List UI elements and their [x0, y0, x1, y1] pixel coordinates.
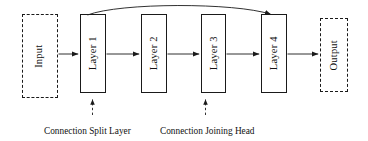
node-layer-4-label: Layer 4	[269, 37, 280, 71]
node-layer-3: Layer 3	[201, 14, 226, 93]
caption-connection-split-layer: Connection Split Layer	[44, 127, 131, 136]
node-layer-1-label: Layer 1	[88, 37, 99, 71]
node-layer-2-label: Layer 2	[149, 37, 160, 71]
diagram-canvas: Input Layer 1 Layer 2 Layer 3 Layer 4 Ou…	[0, 0, 368, 141]
node-layer-4: Layer 4	[261, 14, 287, 93]
node-output-label: Output	[329, 40, 340, 70]
node-input: Input	[22, 14, 58, 98]
node-input-label: Input	[35, 44, 46, 67]
node-layer-1: Layer 1	[80, 14, 106, 93]
node-layer-2: Layer 2	[141, 14, 167, 93]
node-layer-3-label: Layer 3	[208, 37, 219, 71]
caption-connection-joining-head: Connection Joining Head	[160, 127, 255, 136]
node-output: Output	[320, 18, 348, 92]
skip-connection-arc	[88, 6, 271, 15]
